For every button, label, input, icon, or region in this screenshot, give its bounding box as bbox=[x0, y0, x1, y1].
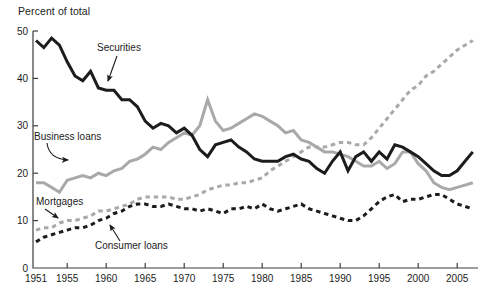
annotation-mortgages: Mortgages bbox=[36, 196, 83, 218]
x-tick-label: 2000 bbox=[407, 273, 430, 284]
x-tick-label: 1995 bbox=[368, 273, 391, 284]
x-tick-label: 1951 bbox=[25, 273, 48, 284]
x-tick-label: 1975 bbox=[212, 273, 235, 284]
annotation-label: Consumer loans bbox=[95, 240, 168, 251]
y-tick-label: 30 bbox=[17, 120, 29, 131]
y-tick-label: 40 bbox=[17, 73, 29, 84]
annotation-arrow bbox=[110, 225, 120, 241]
y-tick-label: 0 bbox=[22, 263, 28, 274]
annotation-label: Securities bbox=[97, 42, 141, 53]
annotation-consumer-loans: Consumer loans bbox=[95, 225, 168, 251]
annotation-arrow bbox=[47, 143, 68, 160]
annotation-label: Business loans bbox=[34, 131, 101, 142]
y-tick-label: 50 bbox=[17, 26, 29, 37]
x-tick-label: 1980 bbox=[251, 273, 274, 284]
chart-container: Percent of total 01020304050195119551960… bbox=[0, 0, 486, 295]
x-tick-label: 1960 bbox=[95, 273, 118, 284]
x-tick-label: 2005 bbox=[446, 273, 469, 284]
y-tick-label: 10 bbox=[17, 215, 29, 226]
annotation-business-loans: Business loans bbox=[34, 131, 101, 160]
annotation-label: Mortgages bbox=[36, 196, 83, 207]
securities-line bbox=[36, 38, 473, 176]
x-tick-label: 1965 bbox=[134, 273, 157, 284]
chart-svg: 0102030405019511955196019651970197519801… bbox=[0, 0, 486, 295]
x-tick-label: 1985 bbox=[290, 273, 313, 284]
business-loans-line bbox=[36, 100, 473, 193]
x-tick-label: 1990 bbox=[329, 273, 352, 284]
annotation-arrow bbox=[45, 209, 58, 218]
y-tick-label: 20 bbox=[17, 168, 29, 179]
annotation-arrow bbox=[108, 56, 117, 81]
x-tick-label: 1970 bbox=[173, 273, 196, 284]
consumer-loans-line bbox=[36, 195, 473, 242]
x-tick-label: 1955 bbox=[56, 273, 79, 284]
annotation-securities: Securities bbox=[97, 42, 141, 81]
axes-frame bbox=[33, 31, 478, 268]
